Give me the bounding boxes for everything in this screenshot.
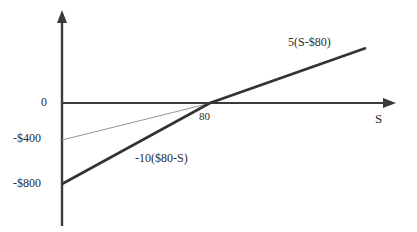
reference-line-series	[62, 103, 211, 140]
y-axis-arrow-icon	[57, 10, 67, 23]
x-tick-label-eighty: 80	[199, 111, 210, 122]
x-axis-arrow-icon	[383, 98, 396, 108]
y-tick-label-zero: 0	[41, 96, 47, 108]
call-payoff-label: 5(S-$80)	[288, 36, 331, 48]
payoff-line-series	[62, 48, 366, 184]
payoff-diagram-figure: 0 -$400 -$800 80 S 5(S-$80) -10($80-S)	[0, 0, 417, 232]
x-axis-name-label: S	[375, 112, 382, 125]
y-tick-label-minus-800: -$800	[13, 177, 41, 189]
y-tick-label-minus-400: -$400	[13, 132, 41, 144]
put-payoff-label: -10($80-S)	[135, 152, 188, 164]
